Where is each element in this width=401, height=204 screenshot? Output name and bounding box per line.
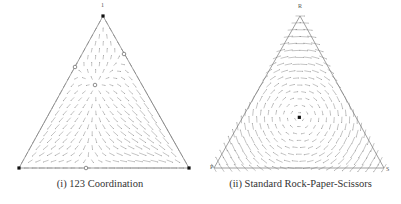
simplex-triangle xyxy=(19,16,189,168)
interior-equilibrium-point xyxy=(298,116,301,119)
stable-point-top xyxy=(101,14,104,17)
caption-left: (i) 123 Coordination xyxy=(0,178,200,189)
vertex-label-top: 1 xyxy=(101,2,104,8)
vertex-label-p: P xyxy=(210,164,213,170)
panel-rock-paper-scissors: R P S (ii) Standard Rock-Paper-Scissors xyxy=(200,0,401,204)
vector-field xyxy=(19,16,190,169)
panel-123-coordination: 1 (i) 123 Coordination xyxy=(0,0,200,204)
vector-field xyxy=(211,16,386,173)
simplex-triangle xyxy=(214,16,384,168)
stable-point-bottom-left xyxy=(17,166,20,169)
caption-right: (ii) Standard Rock-Paper-Scissors xyxy=(200,178,401,189)
vertex-label-r: R xyxy=(298,3,302,9)
vertex-label-s: S xyxy=(386,166,389,172)
simplex-plot-right xyxy=(200,0,401,175)
unstable-point-interior xyxy=(93,83,97,87)
unstable-point-bottom-edge xyxy=(84,166,88,170)
unstable-point-left-edge xyxy=(73,65,77,69)
simplex-plot-left xyxy=(0,0,200,175)
stable-point-bottom-right xyxy=(187,166,190,169)
unstable-point-right-edge xyxy=(122,52,126,56)
